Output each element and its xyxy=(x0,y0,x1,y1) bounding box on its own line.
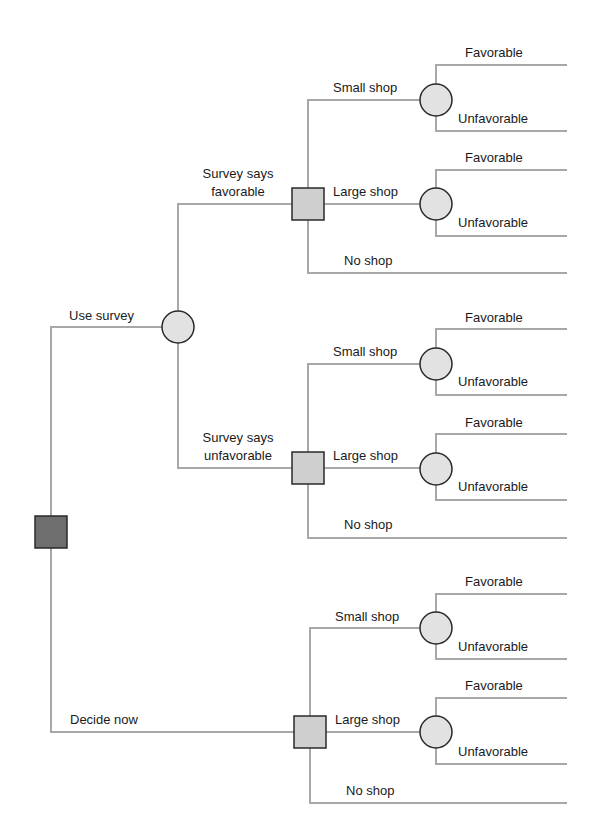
label-survey-unfavorable-2: unfavorable xyxy=(204,448,272,463)
label-now-small-unfavorable: Unfavorable xyxy=(458,639,528,654)
label-survey-favorable-2: favorable xyxy=(211,184,264,199)
now-small-chance-node xyxy=(420,612,452,644)
label-now-small-shop: Small shop xyxy=(335,609,399,624)
label-unfav-no-shop: No shop xyxy=(344,517,392,532)
label-now-small-favorable: Favorable xyxy=(465,574,523,589)
label-unfav-small-unfavorable: Unfavorable xyxy=(458,374,528,389)
fav-small-chance-node xyxy=(420,84,452,116)
label-now-no-shop: No shop xyxy=(346,783,394,798)
survey-chance-node xyxy=(162,311,194,343)
root-branches xyxy=(51,327,310,732)
unfav-large-chance-node xyxy=(420,453,452,485)
unfav-small-chance-node xyxy=(420,348,452,380)
label-now-large-shop: Large shop xyxy=(335,712,400,727)
label-fav-no-shop: No shop xyxy=(344,253,392,268)
label-fav-large-shop: Large shop xyxy=(333,184,398,199)
decision-tree-diagram: Use survey Decide now Survey says favora… xyxy=(0,0,597,837)
label-survey-unfavorable-1: Survey says xyxy=(203,430,274,445)
label-now-large-unfavorable: Unfavorable xyxy=(458,744,528,759)
label-fav-small-favorable: Favorable xyxy=(465,45,523,60)
label-unfav-large-favorable: Favorable xyxy=(465,415,523,430)
label-unfav-small-favorable: Favorable xyxy=(465,310,523,325)
label-now-large-favorable: Favorable xyxy=(465,678,523,693)
root-trunk-line xyxy=(51,327,310,732)
label-unfav-small-shop: Small shop xyxy=(333,344,397,359)
label-decide-now: Decide now xyxy=(70,712,139,727)
use-survey-branches xyxy=(178,204,308,468)
fav-large-chance-node xyxy=(420,188,452,220)
label-fav-small-shop: Small shop xyxy=(333,80,397,95)
now-decision-node xyxy=(294,716,326,748)
fav-decision-node xyxy=(292,188,324,220)
unfav-decision-node xyxy=(292,452,324,484)
label-unfav-large-shop: Large shop xyxy=(333,448,398,463)
label-fav-large-unfavorable: Unfavorable xyxy=(458,215,528,230)
root-decision-node xyxy=(35,516,67,548)
label-use-survey: Use survey xyxy=(69,308,135,323)
survey-result-line xyxy=(178,204,308,468)
label-survey-favorable-1: Survey says xyxy=(203,166,274,181)
label-fav-large-favorable: Favorable xyxy=(465,150,523,165)
label-fav-small-unfavorable: Unfavorable xyxy=(458,111,528,126)
now-large-chance-node xyxy=(420,716,452,748)
label-unfav-large-unfavorable: Unfavorable xyxy=(458,479,528,494)
